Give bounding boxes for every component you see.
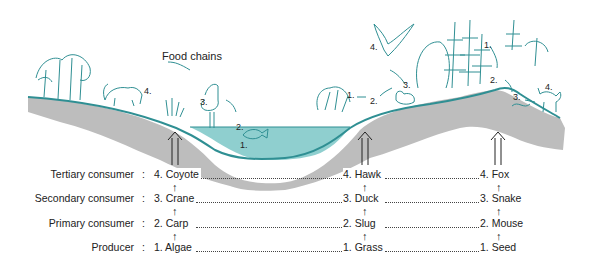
diagram-title: Food chains	[162, 50, 222, 62]
up-arrow-icon: ↑	[496, 182, 502, 192]
scene-num-forest-1: 1.	[484, 40, 492, 50]
hawk-icon	[374, 24, 414, 56]
up-arrow-icon: ↑	[172, 231, 178, 241]
dotted-leader	[385, 202, 485, 203]
scene-num-pond-4: 4.	[144, 86, 152, 96]
dotted-leader	[196, 202, 358, 203]
level-secondary: Secondary consumer	[0, 192, 134, 204]
forest-trees-icon	[417, 20, 548, 88]
colon: :	[142, 217, 145, 229]
chain-grass-tertiary: 4. Hawk	[343, 168, 383, 180]
level-primary: Primary consumer	[0, 217, 134, 229]
dotted-leader	[196, 178, 358, 179]
chain-forest-producer: 1. Seed	[480, 241, 518, 253]
chain-grass-secondary: 3. Duck	[343, 192, 381, 204]
chain-forest-secondary: 3. Snake	[480, 192, 523, 204]
up-arrow-icon: ↑	[362, 182, 368, 192]
food-chain-illustration	[0, 0, 591, 271]
colon: :	[142, 168, 145, 180]
chain-pond-primary: 2. Carp	[154, 217, 190, 229]
dotted-leader	[385, 178, 485, 179]
scene-num-pond-1: 1.	[240, 140, 248, 150]
chain-forest-primary: 2. Mouse	[480, 217, 525, 229]
chain-pond-secondary: 3. Crane	[154, 192, 196, 204]
trees-left-icon	[36, 55, 90, 100]
scene-num-grass-3: 3.	[403, 80, 411, 90]
scene-num-forest-4: 4.	[545, 82, 553, 92]
up-arrow-icon: ↑	[496, 231, 502, 241]
shrub-icon	[317, 87, 350, 112]
up-arrow-icon: ↑	[362, 206, 368, 216]
duck-icon	[396, 91, 414, 104]
up-arrow-icon: ↑	[172, 182, 178, 192]
up-arrow-icon: ↑	[362, 231, 368, 241]
scene-num-pond-3: 3.	[200, 97, 208, 107]
coyote-icon	[104, 84, 142, 106]
arrow-2-to-3-grass	[380, 88, 392, 96]
dotted-leader	[196, 251, 358, 252]
chain-grass-producer: 1. Grass	[343, 241, 385, 253]
chain-grass-primary: 2. Slug	[343, 217, 378, 229]
scene-num-grass-1: 1.	[347, 90, 355, 100]
pond-water	[190, 127, 350, 160]
scene-num-grass-2: 2.	[370, 96, 378, 106]
scene-num-grass-4: 4.	[370, 42, 378, 52]
up-arrow-icon: ↑	[172, 206, 178, 216]
scene-num-pond-2: 2.	[236, 122, 244, 132]
chain-pond-tertiary: 4. Coyote	[154, 168, 201, 180]
level-producer: Producer	[0, 241, 134, 253]
arrow-2-to-3	[226, 100, 236, 112]
reeds-icon	[166, 98, 184, 117]
arrow-3-to-4	[168, 62, 190, 70]
scene-num-forest-2: 2.	[490, 75, 498, 85]
up-arrow-icon: ↑	[496, 206, 502, 216]
scene-num-forest-3: 3.	[513, 92, 521, 102]
dotted-leader	[385, 251, 485, 252]
chain-forest-tertiary: 4. Fox	[480, 168, 511, 180]
dotted-leader	[196, 227, 358, 228]
chain-pond-producer: 1. Algae	[154, 241, 194, 253]
dotted-leader	[385, 227, 485, 228]
colon: :	[142, 192, 145, 204]
level-tertiary: Tertiary consumer	[0, 168, 134, 180]
arrow-2-to-3-forest	[505, 80, 512, 92]
colon: :	[142, 241, 145, 253]
